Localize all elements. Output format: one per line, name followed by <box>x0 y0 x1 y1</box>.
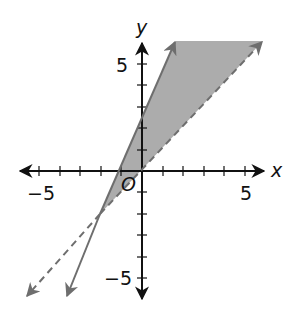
x-pos-label: 5 <box>240 182 252 204</box>
dashed-line-y-x <box>27 42 262 296</box>
y-pos-label: 5 <box>116 54 128 76</box>
x-neg-label: −5 <box>27 182 55 204</box>
coordinate-plane: x y O −5 5 5 −5 <box>0 0 303 314</box>
y-neg-label: −5 <box>104 267 132 289</box>
origin-label: O <box>121 173 136 195</box>
y-axis-label: y <box>135 16 148 38</box>
x-axis-label: x <box>270 159 283 181</box>
